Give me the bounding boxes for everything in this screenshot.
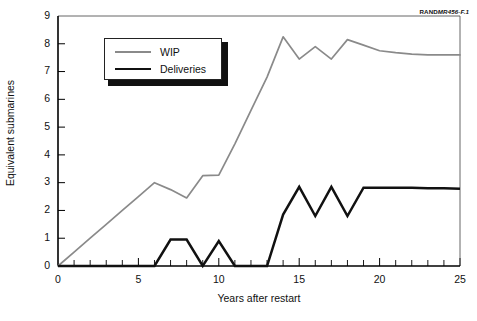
legend-swatch-deliveries-icon	[115, 68, 151, 70]
chart-legend: WIP Deliveries	[104, 38, 228, 86]
y-tick-label: 0	[44, 259, 50, 271]
x-tick-label: 0	[55, 273, 61, 285]
x-tick-label: 25	[454, 273, 466, 285]
legend-box: WIP Deliveries	[104, 38, 222, 80]
y-tick-label: 2	[44, 203, 50, 215]
legend-swatch-wip-icon	[115, 51, 151, 53]
legend-label-deliveries: Deliveries	[160, 63, 206, 75]
legend-item-wip: WIP	[105, 43, 223, 61]
x-tick-label: 15	[293, 273, 305, 285]
y-tick-label: 5	[44, 120, 50, 132]
y-tick-label-group: 0123456789	[44, 9, 50, 271]
y-tick-label: 1	[44, 231, 50, 243]
x-tick-label-group: 0510152025	[55, 273, 466, 285]
y-tick-label: 9	[44, 9, 50, 21]
x-tick-label: 10	[213, 273, 225, 285]
y-tick-label: 8	[44, 37, 50, 49]
x-tick-label: 5	[135, 273, 141, 285]
chart-plot-area: 0123456789 0510152025	[0, 0, 477, 321]
y-tick-label: 7	[44, 64, 50, 76]
y-tick-label: 6	[44, 92, 50, 104]
series-line-deliveries	[58, 187, 460, 266]
figure-container: RANDMR456-F.1 Equivalent submarines Year…	[0, 0, 477, 321]
legend-label-wip: WIP	[160, 46, 180, 58]
y-tick-label: 3	[44, 175, 50, 187]
legend-item-deliveries: Deliveries	[105, 60, 223, 78]
y-tick-label: 4	[44, 148, 50, 160]
x-tick-label: 20	[374, 273, 386, 285]
